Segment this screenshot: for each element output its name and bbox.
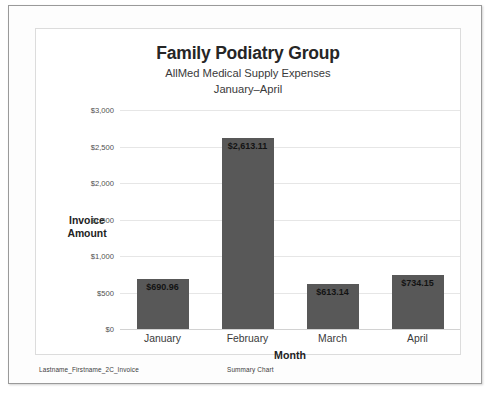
bar-data-label: $2,613.11 <box>222 141 274 151</box>
chart-title: Family Podiatry Group <box>36 43 460 64</box>
chart-subtitle-primary: AllMed Medical Supply Expenses <box>36 67 460 79</box>
bar-slot: $690.96 <box>120 110 205 329</box>
bar[interactable]: $2,613.11 <box>222 138 274 329</box>
y-axis-tick-label: $3,000 <box>44 106 114 115</box>
bar-slot: $2,613.11 <box>205 110 290 329</box>
bar[interactable]: $613.14 <box>307 284 359 329</box>
bar[interactable]: $690.96 <box>137 279 189 329</box>
x-axis-title: Month <box>120 349 460 361</box>
y-axis-tick-label: $2,000 <box>44 179 114 188</box>
y-axis-tick-label: $1,500 <box>44 215 114 224</box>
x-axis-tick-label: April <box>375 333 460 344</box>
bar-data-label: $613.14 <box>307 287 359 297</box>
y-axis-tick-label: $500 <box>44 288 114 297</box>
x-axis-tick-label: March <box>290 333 375 344</box>
bar-slot: $613.14 <box>290 110 375 329</box>
x-axis-tick-label: February <box>205 333 290 344</box>
footer-left-text: Lastname_Firstname_2C_Invoice <box>39 366 139 373</box>
bar-data-label: $690.96 <box>137 282 189 292</box>
bar[interactable]: $734.15 <box>392 275 444 329</box>
plot-area: $3,000$2,500$2,000$1,500$1,000$500$0 $69… <box>120 110 460 329</box>
gridline <box>120 329 460 330</box>
y-axis-tick-label: $0 <box>44 325 114 334</box>
x-axis-tick-label: January <box>120 333 205 344</box>
y-axis-tick-label: $2,500 <box>44 142 114 151</box>
chart-frame[interactable]: Family Podiatry Group AllMed Medical Sup… <box>35 28 461 355</box>
bar-slot: $734.15 <box>375 110 460 329</box>
document-page: Family Podiatry Group AllMed Medical Sup… <box>8 5 482 384</box>
y-axis-tick-label: $1,000 <box>44 252 114 261</box>
footer-center-text: Summary Chart <box>227 366 274 373</box>
chart-subtitle-secondary: January–April <box>36 83 460 95</box>
bar-data-label: $734.15 <box>392 278 444 288</box>
